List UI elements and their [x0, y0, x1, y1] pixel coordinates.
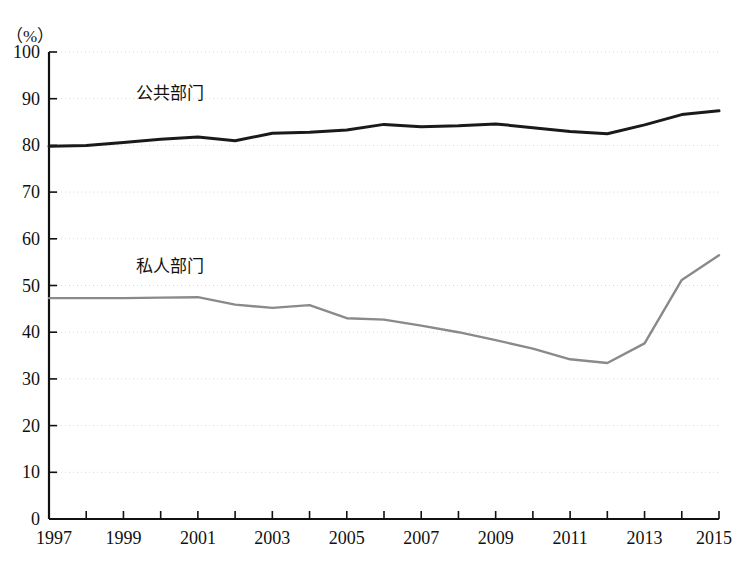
y-axis-tick-label: 20: [0, 417, 40, 435]
y-axis-tick-label: 40: [0, 323, 40, 341]
x-axis-tick-label: 2015: [679, 529, 743, 547]
y-axis-tick-label: 30: [0, 370, 40, 388]
data-series-group: [49, 111, 719, 363]
x-axis-ticks-group: [49, 511, 719, 519]
x-axis-tick-label: 2007: [386, 529, 456, 547]
y-axis-tick-label: 100: [0, 43, 40, 61]
y-axis-tick-label: 70: [0, 183, 40, 201]
x-axis-tick-label: 2011: [535, 529, 605, 547]
x-axis-tick-label: 1997: [19, 529, 89, 547]
y-axis-tick-label: 90: [0, 90, 40, 108]
y-axis-tick-label: 50: [0, 277, 40, 295]
series-label-public-sector: 公共部门: [136, 85, 204, 102]
series-line-public-sector: [49, 111, 719, 146]
line-chart-plot: [0, 0, 743, 567]
x-axis-tick-label: 2013: [610, 529, 680, 547]
x-axis-tick-label: 2001: [163, 529, 233, 547]
y-axis-tick-label: 0: [0, 510, 40, 528]
x-axis-tick-label: 2005: [312, 529, 382, 547]
y-axis-tick-label: 80: [0, 136, 40, 154]
x-axis-tick-label: 2009: [461, 529, 531, 547]
y-axis-ticks-group: [49, 52, 57, 519]
series-label-private-sector: 私人部门: [136, 258, 204, 275]
x-axis-tick-label: 2003: [237, 529, 307, 547]
x-axis-tick-label: 1999: [88, 529, 158, 547]
chart-container: （%） 0102030405060708090100 1997199920012…: [0, 0, 743, 567]
y-axis-tick-label: 10: [0, 463, 40, 481]
y-axis-tick-label: 60: [0, 230, 40, 248]
